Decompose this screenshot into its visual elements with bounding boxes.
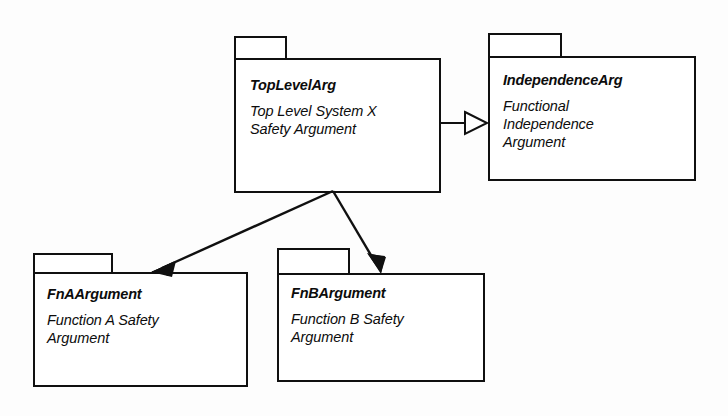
hollow-triangle-arrowhead: [465, 112, 487, 134]
package-tab: [33, 253, 113, 274]
package-fnbargument[interactable]: FnBArgument Function B Safety Argument: [277, 248, 489, 382]
package-tab: [234, 36, 287, 60]
package-description-label: Function B Safety Argument: [291, 311, 481, 347]
package-description-label: Functional Independence Argument: [503, 98, 693, 152]
package-text-block: FnBArgument Function B Safety Argument: [291, 286, 481, 347]
package-name-label: TopLevelArg: [250, 78, 435, 94]
package-description-label: Function A Safety Argument: [47, 312, 243, 348]
package-text-block: IndependenceArg Functional Independence …: [503, 73, 693, 152]
package-name-label: FnBArgument: [291, 286, 481, 302]
uml-package-diagram: TopLevelArg Top Level System X Safety Ar…: [0, 0, 728, 416]
package-text-block: FnAArgument Function A Safety Argument: [47, 287, 243, 348]
connector-toplevel-to-independence[interactable]: [441, 112, 487, 134]
package-name-label: FnAArgument: [47, 287, 243, 303]
package-text-block: TopLevelArg Top Level System X Safety Ar…: [250, 78, 435, 139]
package-toplevelarg[interactable]: TopLevelArg Top Level System X Safety Ar…: [234, 36, 445, 193]
package-description-label: Top Level System X Safety Argument: [250, 103, 435, 139]
package-tab: [488, 33, 562, 58]
package-fnaargument[interactable]: FnAArgument Function A Safety Argument: [33, 253, 252, 387]
package-independencearg[interactable]: IndependenceArg Functional Independence …: [488, 33, 700, 181]
package-name-label: IndependenceArg: [503, 73, 693, 89]
package-tab: [277, 248, 350, 275]
